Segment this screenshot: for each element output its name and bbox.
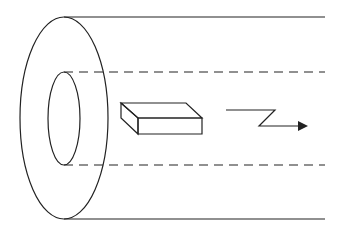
rectangular-block: [121, 103, 202, 134]
inner-bore-ellipse: [48, 72, 80, 165]
tube-diagram: [0, 0, 343, 236]
outer-tube-ellipse: [20, 17, 108, 219]
zigzag-direction-arrow: [226, 110, 300, 126]
arrowhead-icon: [298, 121, 308, 131]
